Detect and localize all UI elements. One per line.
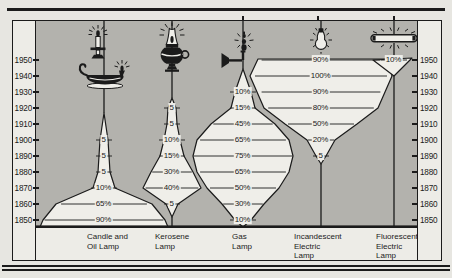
value-label: 15% <box>233 103 251 112</box>
year-tick-label: 1870 <box>420 184 437 193</box>
value-label: 5 <box>168 119 175 128</box>
value-label: 10% <box>233 87 251 96</box>
axis-tick <box>412 203 418 205</box>
column-label-gas: Gas Lamp <box>232 232 252 251</box>
axis-tick <box>412 187 418 189</box>
value-label: 10% <box>233 215 251 224</box>
axis-tick <box>412 219 418 221</box>
axis-tick <box>412 59 418 61</box>
column-label-kerosene: Kerosene Lamp <box>155 232 189 251</box>
axis-tick <box>412 91 418 93</box>
axis-tick <box>412 123 418 125</box>
year-tick-label: 1950 <box>420 56 437 65</box>
year-tick-label: 1870 <box>13 184 32 193</box>
value-label: 90% <box>94 215 112 224</box>
value-label: 30% <box>233 199 251 208</box>
axis-tick <box>412 75 418 77</box>
value-label: 90% <box>311 55 329 64</box>
year-tick-label: 1930 <box>13 88 32 97</box>
lamp-usage-chart-page: 55510%65%90%5510%15%30%40%510%15%45%65%7… <box>0 0 452 278</box>
frame-stub <box>242 16 244 21</box>
year-tick-label: 1890 <box>420 152 437 161</box>
axis-tick <box>33 139 39 141</box>
value-label: 5 <box>100 167 107 176</box>
axis-tick <box>33 75 39 77</box>
year-tick-label: 1930 <box>420 88 437 97</box>
column-label-incandescent: Incandescent Electric Lamp <box>294 232 342 261</box>
value-label: 80% <box>311 103 329 112</box>
frame-stub <box>317 16 319 21</box>
value-label: 20% <box>311 135 329 144</box>
value-label: 65% <box>233 167 251 176</box>
year-tick-label: 1920 <box>13 104 32 113</box>
top-rule <box>7 8 445 11</box>
value-label: 15% <box>162 151 180 160</box>
value-label: 10% <box>94 183 112 192</box>
value-label: 65% <box>233 135 251 144</box>
value-label: 45% <box>233 119 251 128</box>
value-label: 5 <box>168 103 175 112</box>
axis-tick <box>33 171 39 173</box>
column-label-candle-oil: Candle and Oil Lamp <box>87 232 128 251</box>
year-tick-label: 1880 <box>13 168 32 177</box>
axis-tick <box>412 171 418 173</box>
year-tick-label: 1940 <box>13 72 32 81</box>
year-tick-label: 1900 <box>13 136 32 145</box>
value-label: 5 <box>317 151 324 160</box>
value-label: 40% <box>162 183 180 192</box>
axis-tick <box>33 107 39 109</box>
x-axis-line <box>35 225 417 228</box>
value-label: 100% <box>309 71 332 80</box>
axis-tick <box>33 123 39 125</box>
year-tick-label: 1910 <box>13 120 32 129</box>
year-tick-label: 1900 <box>420 136 437 145</box>
year-tick-label: 1920 <box>420 104 437 113</box>
plot-area <box>35 21 417 228</box>
year-tick-label: 1950 <box>13 56 32 65</box>
value-label: 50% <box>311 119 329 128</box>
value-label: 50% <box>233 183 251 192</box>
year-tick-label: 1890 <box>13 152 32 161</box>
column-label-fluorescent: Fluorescent Electric Lamp <box>376 232 418 261</box>
value-label: 10% <box>384 55 402 64</box>
axis-tick <box>412 155 418 157</box>
bottom-rule-upper <box>2 265 450 267</box>
year-tick-label: 1910 <box>420 120 437 129</box>
value-label: 65% <box>94 199 112 208</box>
value-label: 75% <box>233 151 251 160</box>
year-tick-label: 1940 <box>420 72 437 81</box>
year-tick-label: 1850 <box>420 216 437 225</box>
axis-tick <box>33 91 39 93</box>
value-label: 5 <box>168 199 175 208</box>
year-tick-label: 1860 <box>13 200 32 209</box>
axis-tick <box>33 187 39 189</box>
year-tick-label: 1880 <box>420 168 437 177</box>
axis-tick <box>33 59 39 61</box>
value-label: 30% <box>162 167 180 176</box>
year-tick-label: 1850 <box>13 216 32 225</box>
value-label: 5 <box>100 135 107 144</box>
value-label: 10% <box>162 135 180 144</box>
value-label: 5 <box>100 151 107 160</box>
axis-tick <box>33 155 39 157</box>
chart-frame: 55510%65%90%5510%15%30%40%510%15%45%65%7… <box>12 20 442 261</box>
frame-stub <box>393 16 395 21</box>
axis-tick <box>412 107 418 109</box>
value-label: 90% <box>311 87 329 96</box>
axis-tick <box>33 203 39 205</box>
year-tick-label: 1860 <box>420 200 437 209</box>
axis-tick <box>33 219 39 221</box>
bottom-rule-lower <box>2 269 450 271</box>
axis-tick <box>412 139 418 141</box>
